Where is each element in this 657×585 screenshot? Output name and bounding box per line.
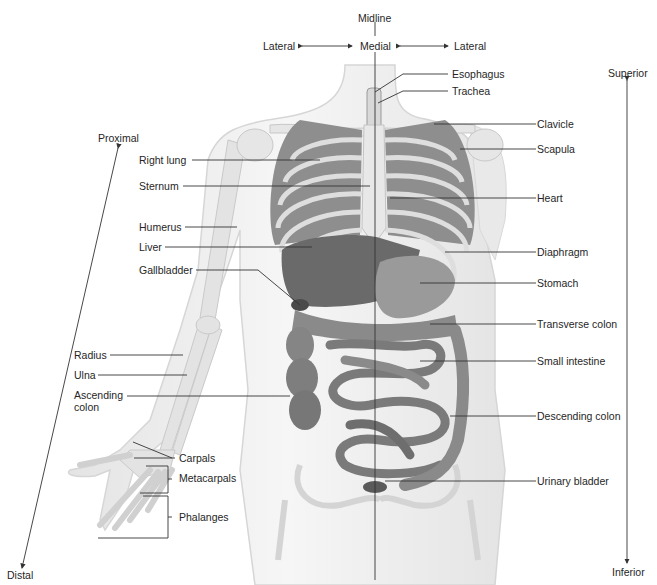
lateral-right-label: Lateral [454,40,486,52]
label-metacarpals: Metacarpals [179,472,236,484]
label-right-lung: Right lung [139,154,186,166]
label-sternum: Sternum [139,180,179,192]
superior-label: Superior [608,67,648,79]
label-clavicle: Clavicle [537,118,574,130]
label-scapula: Scapula [537,143,575,155]
medial-label: Medial [360,40,391,52]
label-diaphragm: Diaphragm [537,246,588,258]
label-ascending-colon: Ascending colon [74,389,134,413]
label-trachea: Trachea [452,85,490,97]
label-transverse-colon: Transverse colon [537,318,617,330]
midline-label: Midline [358,12,391,24]
distal-label: Distal [7,569,33,581]
inferior-label: Inferior [612,566,645,578]
label-radius: Radius [74,349,107,361]
label-small-intestine: Small intestine [537,355,605,367]
label-ulna: Ulna [74,369,96,381]
label-urinary-bladder: Urinary bladder [537,475,609,487]
label-descending-colon: Descending colon [537,410,620,422]
label-phalanges: Phalanges [179,511,229,523]
body-illustration [0,0,657,585]
label-esophagus: Esophagus [452,68,505,80]
label-liver: Liver [139,241,162,253]
lateral-left-label: Lateral [263,40,295,52]
label-humerus: Humerus [139,221,182,233]
label-heart: Heart [537,192,563,204]
anatomy-diagram: Midline Lateral Medial Lateral Superior … [0,0,657,585]
label-stomach: Stomach [537,277,578,289]
label-gallbladder: Gallbladder [139,264,193,276]
proximal-label: Proximal [98,132,139,144]
label-carpals: Carpals [179,452,215,464]
